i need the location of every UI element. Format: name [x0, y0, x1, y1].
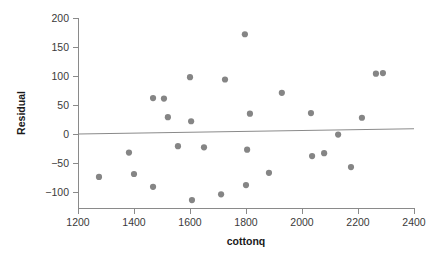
x-tick-label: 1800: [234, 216, 258, 228]
y-tick-label: 100: [51, 70, 69, 82]
y-axis-ticks: −100−50050100150200: [45, 12, 78, 198]
data-point: [150, 184, 156, 190]
y-tick-label: −50: [51, 157, 69, 169]
chart-canvas: −100−50050100150200 12001400160018002000…: [0, 0, 439, 256]
data-point: [188, 118, 194, 124]
axis-lines: [78, 18, 415, 209]
data-point: [175, 143, 181, 149]
data-point: [131, 171, 137, 177]
data-point: [201, 144, 207, 150]
data-point: [247, 111, 253, 117]
data-point: [161, 96, 167, 102]
data-point: [373, 71, 379, 77]
data-point: [279, 90, 285, 96]
x-axis-ticks: 1200140016001800200022002400: [66, 209, 426, 229]
data-point: [96, 174, 102, 180]
y-tick-label: 150: [51, 41, 69, 53]
data-point: [308, 110, 314, 116]
data-point: [165, 114, 171, 120]
y-tick-label: −100: [45, 186, 69, 198]
data-point: [359, 115, 365, 121]
data-point: [126, 149, 132, 155]
data-point: [309, 153, 315, 159]
y-tick-label: 50: [57, 99, 69, 111]
data-point: [242, 31, 248, 37]
data-point: [189, 197, 195, 203]
x-tick-label: 1400: [122, 216, 146, 228]
residual-scatter-plot: −100−50050100150200 12001400160018002000…: [0, 0, 439, 256]
x-tick-label: 1200: [66, 216, 90, 228]
data-point: [380, 70, 386, 76]
data-point: [243, 182, 249, 188]
y-tick-label: 200: [51, 12, 69, 24]
data-point: [321, 150, 327, 156]
data-point: [150, 95, 156, 101]
data-point: [335, 131, 341, 137]
data-point: [348, 164, 354, 170]
data-points-group: [96, 31, 386, 203]
y-axis-title: Residual: [15, 91, 27, 135]
trend-line: [78, 129, 414, 134]
x-axis-title: cottonq: [227, 235, 266, 247]
data-point: [244, 147, 250, 153]
x-tick-label: 2200: [346, 216, 370, 228]
data-point: [187, 74, 193, 80]
x-tick-label: 1600: [178, 216, 202, 228]
data-point: [266, 170, 272, 176]
x-tick-label: 2400: [402, 216, 426, 228]
data-point: [218, 191, 224, 197]
y-tick-label: 0: [63, 128, 69, 140]
x-tick-label: 2000: [290, 216, 314, 228]
data-point: [222, 76, 228, 82]
